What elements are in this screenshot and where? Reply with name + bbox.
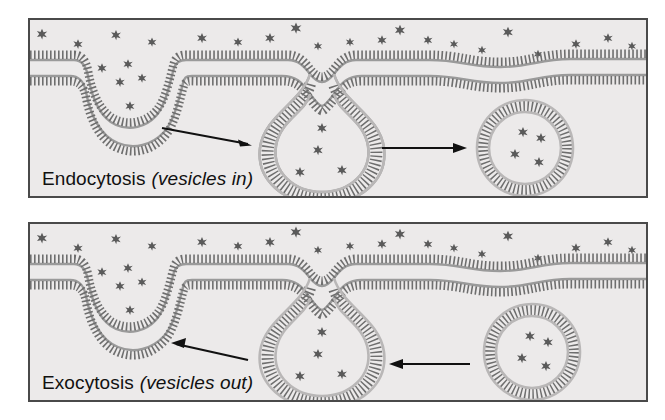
- arrow-vesicle-to-bud: [389, 359, 470, 369]
- caption-endocytosis: Endocytosis(vesicles in): [42, 168, 253, 190]
- arrow-bud-to-pit: [171, 338, 248, 360]
- arrow-pit-to-bud: [162, 128, 252, 147]
- endocytosis-exocytosis-figure: Endocytosis(vesicles in): [0, 0, 665, 420]
- caption-paren-endocytosis: (vesicles in): [152, 168, 254, 189]
- caption-exocytosis: Exocytosis(vesicles out): [42, 372, 253, 394]
- budding-vesicle: [260, 74, 385, 196]
- free-vesicle: [484, 304, 580, 400]
- pit-cargo-particles: [97, 263, 146, 315]
- inner-leaflet-tails: [30, 284, 646, 355]
- panel-exocytosis: Exocytosis(vesicles out): [28, 222, 648, 402]
- extracellular-particles: [37, 227, 636, 263]
- fusing-vesicle: [260, 278, 385, 400]
- arrow-bud-to-vesicle: [382, 143, 467, 153]
- caption-paren-exocytosis: (vesicles out): [140, 372, 253, 393]
- panel-endocytosis: Endocytosis(vesicles in): [28, 18, 648, 198]
- free-vesicle: [477, 100, 573, 196]
- fusing-vesicle-cargo-particles: [295, 327, 347, 381]
- caption-term-endocytosis: Endocytosis: [42, 168, 146, 189]
- extracellular-particles: [37, 23, 636, 59]
- vesicle-inner-head-line: [496, 316, 568, 388]
- fusing-vesicle-bilayer-tails: [268, 288, 377, 400]
- vesicle-outer-head-line: [477, 100, 573, 196]
- vesicle-bilayer-tails: [483, 106, 567, 190]
- caption-term-exocytosis: Exocytosis: [42, 372, 134, 393]
- vesicle-bilayer-tails: [490, 310, 574, 394]
- pit-cargo-particles: [97, 59, 146, 111]
- vesicle-inner-head-line: [489, 112, 561, 184]
- bud-cargo-particles: [295, 123, 347, 177]
- vesicle-outer-head-line: [484, 304, 580, 400]
